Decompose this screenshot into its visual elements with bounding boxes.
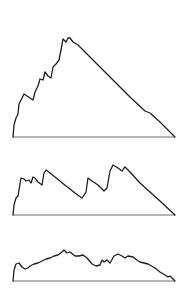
path-medium <box>13 165 175 215</box>
path-tall <box>13 38 175 137</box>
profile-medium <box>13 165 175 215</box>
path-low <box>13 250 175 281</box>
profile-tall <box>13 38 175 137</box>
profile-low <box>13 250 175 281</box>
excursion-diagram <box>0 0 189 291</box>
